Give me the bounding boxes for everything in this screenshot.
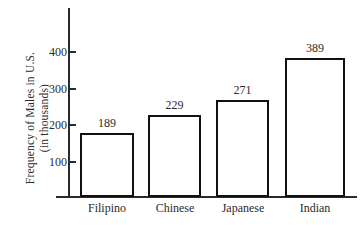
y-tick-label-400: 400 — [27, 45, 67, 60]
y-tick-label-200: 200 — [27, 118, 67, 133]
x-axis-category-filipino: Filipino — [73, 201, 141, 216]
bar-value-japanese: 271 — [216, 83, 269, 98]
bar-japanese — [216, 100, 269, 197]
y-tick-label-100: 100 — [27, 155, 67, 170]
y-tick-mark-300 — [70, 88, 76, 90]
bar-value-indian: 389 — [285, 41, 345, 56]
y-tick-mark-100 — [70, 161, 76, 163]
y-axis-line — [68, 8, 70, 198]
bar-filipino — [80, 133, 134, 197]
bar-chinese — [148, 115, 201, 197]
bar-chart-figure: Frequency of Males in U.S. (in thousands… — [0, 0, 363, 232]
bar-indian — [285, 58, 345, 197]
y-tick-mark-200 — [70, 124, 76, 126]
y-tick-mark-400 — [70, 51, 76, 53]
bar-value-chinese: 229 — [148, 98, 201, 113]
x-axis-category-japanese: Japanese — [207, 201, 279, 216]
x-axis-category-chinese: Chinese — [141, 201, 209, 216]
x-axis-category-indian: Indian — [283, 201, 347, 216]
bar-value-filipino: 189 — [80, 116, 134, 131]
y-tick-label-300: 300 — [27, 82, 67, 97]
